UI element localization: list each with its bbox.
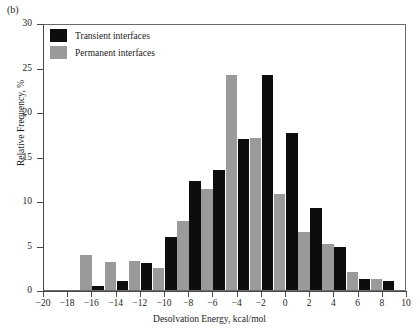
legend: Transient interfacesPermanent interfaces xyxy=(50,27,155,61)
bars-layer xyxy=(44,25,405,290)
y-tick-mark xyxy=(37,202,43,203)
x-axis-title: Desolvation Energy, kcal/mol xyxy=(0,314,419,324)
y-tick-mark xyxy=(37,247,43,248)
histogram-bar xyxy=(359,279,371,290)
x-tick-mark xyxy=(91,291,92,297)
histogram-bar xyxy=(286,133,298,290)
histogram-bar xyxy=(213,170,225,290)
panel-label: (b) xyxy=(7,4,19,15)
histogram-bar xyxy=(117,281,129,290)
y-tick-label: 5 xyxy=(6,242,32,252)
histogram-bar xyxy=(153,268,165,290)
y-tick-mark xyxy=(37,24,43,25)
histogram-bar xyxy=(262,75,274,290)
histogram-bar xyxy=(105,262,117,290)
y-tick-label: 10 xyxy=(6,197,32,207)
legend-item: Transient interfaces xyxy=(50,27,155,44)
x-tick-mark xyxy=(333,291,334,297)
histogram-bar xyxy=(322,244,334,290)
x-tick-mark xyxy=(67,291,68,297)
histogram-bar xyxy=(80,255,92,290)
legend-swatch-transient xyxy=(50,29,67,42)
histogram-bar xyxy=(177,221,189,290)
histogram-bar xyxy=(310,208,322,290)
histogram-bar xyxy=(189,181,201,290)
x-tick-mark xyxy=(43,291,44,297)
histogram-bar xyxy=(383,281,395,290)
histogram-bar xyxy=(298,232,310,290)
y-tick-label: 0 xyxy=(6,286,32,296)
x-tick-label: 10 xyxy=(391,299,419,309)
legend-swatch-permanent xyxy=(50,46,67,59)
histogram-bar xyxy=(371,279,383,290)
x-axis-line xyxy=(43,291,407,292)
x-tick-mark xyxy=(237,291,238,297)
x-tick-mark xyxy=(406,291,407,297)
y-axis-line xyxy=(43,24,44,291)
x-tick-mark xyxy=(140,291,141,297)
x-tick-mark xyxy=(212,291,213,297)
x-tick-mark xyxy=(261,291,262,297)
legend-label: Permanent interfaces xyxy=(75,48,155,58)
x-tick-mark xyxy=(164,291,165,297)
y-tick-mark xyxy=(37,69,43,70)
x-tick-mark xyxy=(309,291,310,297)
plot-area xyxy=(43,24,406,291)
y-tick-mark xyxy=(37,158,43,159)
y-tick-label: 30 xyxy=(6,19,32,29)
legend-item: Permanent interfaces xyxy=(50,44,155,61)
histogram-bar xyxy=(226,75,238,290)
y-axis-title: Relative Frequency, % xyxy=(16,48,26,198)
x-tick-mark xyxy=(358,291,359,297)
x-tick-mark xyxy=(285,291,286,297)
legend-label: Transient interfaces xyxy=(75,31,150,41)
histogram-bar xyxy=(165,237,177,290)
histogram-bar xyxy=(201,189,213,290)
y-tick-mark xyxy=(37,113,43,114)
histogram-bar xyxy=(334,247,346,290)
x-tick-mark xyxy=(116,291,117,297)
figure-panel-b: (b) 051015202530 Relative Frequency, % −… xyxy=(0,0,419,331)
histogram-bar xyxy=(92,286,104,290)
histogram-bar xyxy=(250,138,262,290)
histogram-bar xyxy=(274,194,286,290)
x-tick-mark xyxy=(382,291,383,297)
histogram-bar xyxy=(129,261,141,290)
x-tick-mark xyxy=(188,291,189,297)
histogram-bar xyxy=(238,139,250,290)
histogram-bar xyxy=(141,263,153,290)
histogram-bar xyxy=(347,272,359,290)
